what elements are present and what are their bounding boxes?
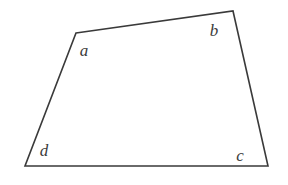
- quadrilateral-figure: a b c d: [0, 0, 288, 185]
- vertex-label-a: a: [80, 41, 89, 60]
- vertex-label-b: b: [210, 21, 219, 40]
- vertex-label-c: c: [236, 146, 244, 165]
- diagram-canvas: a b c d: [0, 0, 288, 185]
- vertex-label-d: d: [40, 141, 49, 160]
